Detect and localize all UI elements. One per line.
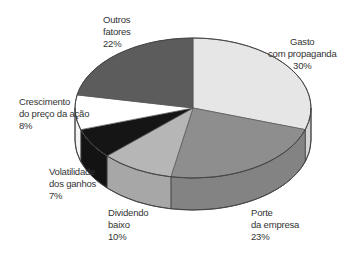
label-line: 7% <box>49 190 96 202</box>
label-outros-fatores: Outros fatores 22% <box>103 14 131 50</box>
label-gasto-com-propaganda: Gasto com propaganda 30% <box>268 36 337 72</box>
label-line: Outros <box>103 14 131 26</box>
label-crescimento-do-preco: Crescimento do preço da ação 8% <box>19 96 89 132</box>
label-line: dos ganhos <box>49 178 96 190</box>
label-line: 8% <box>19 120 89 132</box>
label-line: 23% <box>251 231 299 243</box>
label-line: 30% <box>268 60 337 72</box>
label-line: Crescimento <box>19 96 89 108</box>
label-line: Dividendo <box>108 207 148 219</box>
label-line: Porte <box>251 207 299 219</box>
label-line: fatores <box>103 26 131 38</box>
label-line: com propaganda <box>268 48 337 60</box>
label-line: da empresa <box>251 219 299 231</box>
label-line: Gasto <box>268 36 337 48</box>
label-volatilidade-dos-ganhos: Volatilidade dos ganhos 7% <box>49 166 96 202</box>
label-line: do preço da ação <box>19 108 89 120</box>
label-line: baixo <box>108 219 148 231</box>
label-line: 22% <box>103 38 131 50</box>
label-porte-da-empresa: Porte da empresa 23% <box>251 207 299 243</box>
label-line: Volatilidade <box>49 166 96 178</box>
label-line: 10% <box>108 231 148 243</box>
label-dividendo-baixo: Dividendo baixo 10% <box>108 207 148 243</box>
